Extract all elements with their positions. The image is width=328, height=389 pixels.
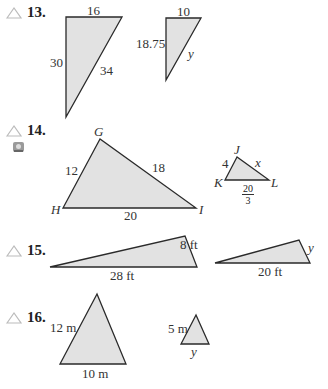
label-13-small-top: 10: [177, 4, 190, 20]
vertex-L: L: [271, 175, 278, 191]
label-14-JK: 4: [222, 156, 229, 172]
problem-number-14: 14.: [27, 122, 46, 139]
label-14-KL-fraction: 20 3: [242, 183, 254, 206]
label-13-big-hyp: 34: [100, 63, 113, 79]
problem-number-16: 16.: [27, 309, 46, 326]
label-15-big-base: 28 ft: [110, 268, 134, 284]
label-16-small-side: 5 m: [168, 321, 188, 337]
problem-number-13: 13.: [27, 4, 46, 21]
label-14-GH: 12: [65, 163, 78, 179]
label-15-big-side: 8 ft: [180, 237, 198, 253]
triangle-13-large: [66, 17, 122, 117]
label-14-JL: x: [255, 155, 261, 171]
label-16-small-base: y: [191, 344, 197, 360]
label-13-small-left: 18.75: [136, 36, 165, 52]
video-camera-icon: [12, 141, 25, 153]
label-16-big-base: 10 m: [82, 366, 108, 382]
label-16-big-side: 12 m: [50, 320, 76, 336]
triangle-15-large: [50, 236, 197, 267]
label-13-small-hyp: y: [188, 46, 194, 62]
triangle-icon: [7, 8, 21, 323]
vertex-K: K: [214, 175, 223, 191]
problem-number-15: 15.: [27, 242, 46, 259]
triangle-13-small: [166, 18, 201, 80]
vertex-I: I: [199, 202, 203, 218]
triangle-14-small: [225, 157, 269, 180]
vertex-J: J: [234, 142, 240, 158]
label-14-HI: 20: [124, 208, 137, 224]
label-13-big-top: 16: [87, 3, 100, 19]
vertex-H: H: [51, 202, 60, 218]
label-15-small-side: y: [308, 240, 314, 256]
label-13-big-left: 30: [50, 55, 63, 71]
triangle-15-small: [215, 240, 310, 263]
label-14-GI: 18: [152, 160, 165, 176]
label-15-small-base: 20 ft: [258, 264, 282, 280]
vertex-G: G: [94, 124, 103, 140]
triangle-14-large: [63, 139, 196, 208]
